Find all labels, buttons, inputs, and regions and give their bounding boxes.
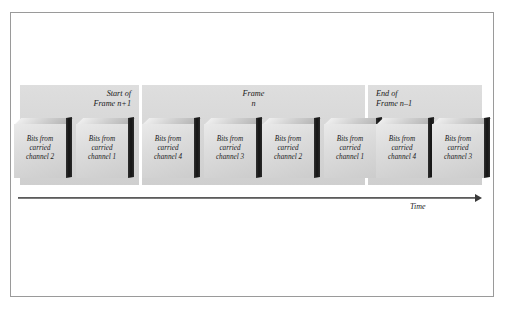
block-side-face: [128, 117, 134, 178]
block-label: Bits fromcarriedchannel 4: [142, 135, 194, 163]
block-label-line1: Bits from: [376, 135, 428, 144]
band-label-line2: n: [142, 99, 365, 109]
block-label: Bits fromcarriedchannel 4: [376, 135, 428, 163]
band-label-end-of-frame-n-minus-1: End of Frame n–1: [368, 89, 482, 109]
block-side-face: [194, 117, 200, 178]
block-label-line2: carried: [262, 144, 314, 153]
block-label: Bits fromcarriedchannel 3: [204, 135, 256, 163]
time-axis-label: Time: [410, 202, 474, 211]
block-label-line1: Bits from: [204, 135, 256, 144]
band-label-line1: Start of: [20, 89, 131, 99]
block-label-line1: Bits from: [76, 135, 128, 144]
band-label-line2: Frame n+1: [20, 99, 131, 109]
block-side-face: [484, 117, 490, 178]
time-axis: [18, 197, 482, 200]
block-label-line1: Bits from: [14, 135, 66, 144]
band-label-line1: End of: [376, 89, 482, 99]
block-label-line2: carried: [324, 144, 376, 153]
block-label: Bits fromcarriedchannel 3: [432, 135, 484, 163]
band-label-line1: Frame: [142, 89, 365, 99]
block-label-line3: channel 4: [142, 153, 194, 162]
arrow-right-icon: [475, 194, 482, 202]
band-label-line2: Frame n–1: [376, 99, 482, 109]
block-label-line3: channel 2: [14, 153, 66, 162]
block-label: Bits fromcarriedchannel 2: [14, 135, 66, 163]
block-label-line3: channel 4: [376, 153, 428, 162]
band-label-frame-n: Frame n: [142, 89, 365, 109]
block-label-line2: carried: [376, 144, 428, 153]
timeslot-block: Bits fromcarriedchannel 2: [262, 124, 314, 178]
block-label-line2: carried: [76, 144, 128, 153]
block-label-line1: Bits from: [142, 135, 194, 144]
timeslot-block: Bits fromcarriedchannel 1: [76, 124, 128, 178]
block-side-face: [314, 117, 320, 178]
block-label-line3: channel 1: [76, 153, 128, 162]
block-label: Bits fromcarriedchannel 2: [262, 135, 314, 163]
time-axis-line: [18, 197, 477, 199]
block-label-line3: channel 3: [204, 153, 256, 162]
timeslot-block: Bits fromcarriedchannel 2: [14, 124, 66, 178]
block-label-line2: carried: [14, 144, 66, 153]
timeslot-block: Bits fromcarriedchannel 4: [376, 124, 428, 178]
block-label: Bits fromcarriedchannel 1: [76, 135, 128, 163]
block-label-line2: carried: [432, 144, 484, 153]
block-label-line1: Bits from: [324, 135, 376, 144]
block-label-line3: channel 3: [432, 153, 484, 162]
band-label-start-of-frame-n-plus-1: Start of Frame n+1: [20, 89, 139, 109]
block-side-face: [66, 117, 72, 178]
timeslot-block: Bits fromcarriedchannel 1: [324, 124, 376, 178]
block-label-line3: channel 1: [324, 153, 376, 162]
tdm-frame-figure: Start of Frame n+1 Frame n End of Frame …: [0, 0, 506, 311]
timeslot-block: Bits fromcarriedchannel 3: [432, 124, 484, 178]
block-label-line1: Bits from: [262, 135, 314, 144]
timeslot-block: Bits fromcarriedchannel 3: [204, 124, 256, 178]
timeslot-block-row: Bits fromcarriedchannel 2Bits fromcarrie…: [0, 0, 506, 311]
block-label-line3: channel 2: [262, 153, 314, 162]
block-label-line2: carried: [142, 144, 194, 153]
timeslot-block: Bits fromcarriedchannel 4: [142, 124, 194, 178]
block-label-line1: Bits from: [432, 135, 484, 144]
block-label: Bits fromcarriedchannel 1: [324, 135, 376, 163]
block-label-line2: carried: [204, 144, 256, 153]
